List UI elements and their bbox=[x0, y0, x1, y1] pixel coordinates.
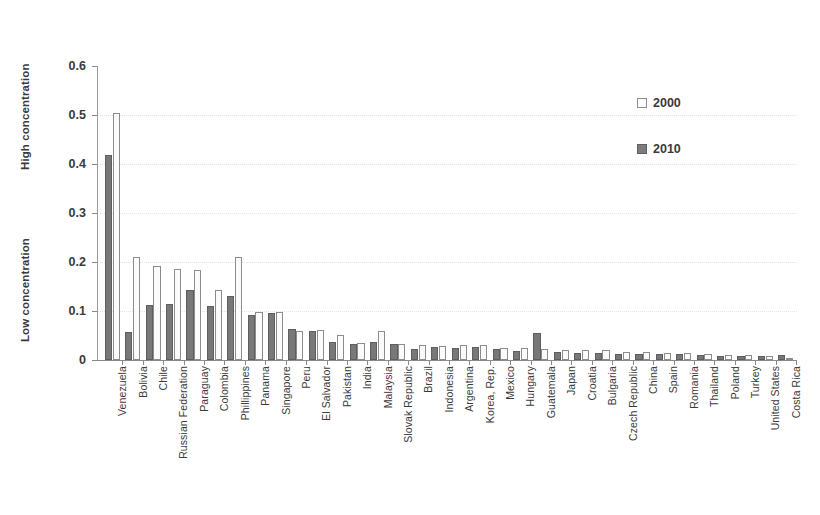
bar-2000 bbox=[113, 113, 120, 360]
bar-2000 bbox=[480, 345, 487, 360]
x-axis-tick-mark bbox=[735, 360, 736, 365]
x-axis-tick-mark bbox=[510, 360, 511, 365]
bar-2000 bbox=[582, 350, 589, 360]
x-axis-category-label: Thailand bbox=[708, 366, 720, 407]
bar-2000 bbox=[500, 348, 507, 360]
bar-2010 bbox=[717, 356, 724, 360]
x-axis-category-label: Korea, Rep. bbox=[484, 366, 496, 423]
bar-2010 bbox=[105, 155, 112, 360]
x-axis-tick-mark bbox=[429, 360, 430, 365]
bar-2010 bbox=[758, 356, 765, 360]
x-axis-tick-mark bbox=[714, 360, 715, 365]
axis-label-high-concentration: High concentration bbox=[19, 63, 31, 170]
x-axis-category-label: United States bbox=[769, 366, 781, 430]
x-axis-category-label: Hungary bbox=[524, 366, 536, 406]
bar-2000 bbox=[276, 312, 283, 360]
bar-2010 bbox=[288, 329, 295, 360]
x-axis-category-label: Pakistan bbox=[341, 366, 353, 407]
x-axis-tick-mark bbox=[306, 360, 307, 365]
bar-group bbox=[531, 66, 551, 360]
bar-group bbox=[755, 66, 775, 360]
bar-2000 bbox=[786, 358, 793, 360]
bar-2000 bbox=[194, 270, 201, 360]
x-axis-category-label: Guatemala bbox=[545, 366, 557, 418]
x-axis-category-label: Panama bbox=[259, 366, 271, 406]
bar-2010 bbox=[778, 355, 785, 360]
y-axis-tick-label: 0.2 bbox=[69, 255, 86, 269]
x-axis-tick-mark bbox=[367, 360, 368, 365]
bar-2000 bbox=[357, 343, 364, 360]
bar-2010 bbox=[146, 305, 153, 360]
y-axis-tick-mark bbox=[92, 311, 97, 312]
x-axis-tick-mark bbox=[551, 360, 552, 365]
bar-2000 bbox=[623, 352, 630, 360]
bar-2010 bbox=[268, 313, 275, 360]
bar-group bbox=[388, 66, 408, 360]
y-axis-tick-mark bbox=[92, 66, 97, 67]
bar-group bbox=[551, 66, 571, 360]
x-axis-tick-mark bbox=[224, 360, 225, 365]
bar-2010 bbox=[390, 344, 397, 360]
x-axis-tick-mark bbox=[265, 360, 266, 365]
x-axis-tick-mark bbox=[449, 360, 450, 365]
bar-2010 bbox=[595, 353, 602, 360]
bar-2010 bbox=[411, 349, 418, 360]
bar-2010 bbox=[186, 290, 193, 360]
x-axis-category-label: Spain bbox=[667, 366, 679, 393]
x-axis-category-label: Indonesia bbox=[443, 366, 455, 412]
y-axis-tick-label: 0.3 bbox=[69, 206, 86, 220]
bar-2000 bbox=[602, 350, 609, 360]
legend-item-2000: 2000 bbox=[637, 96, 757, 110]
x-axis-category-label: Mexico bbox=[504, 366, 516, 400]
bar-group bbox=[776, 66, 796, 360]
legend-label-2000: 2000 bbox=[653, 96, 681, 110]
bar-2000 bbox=[153, 266, 160, 360]
x-axis-category-label: Japan bbox=[565, 366, 577, 395]
axis-label-low-concentration: Low concentration bbox=[19, 238, 31, 342]
x-axis-category-label: Peru bbox=[300, 366, 312, 389]
x-axis-tick-mark bbox=[122, 360, 123, 365]
bar-group bbox=[265, 66, 285, 360]
bar-2000 bbox=[725, 355, 732, 360]
x-axis-category-label: Bolivia bbox=[137, 366, 149, 398]
bar-group bbox=[143, 66, 163, 360]
bar-group bbox=[429, 66, 449, 360]
y-axis-tick-label: 0.5 bbox=[69, 108, 86, 122]
x-axis-category-label: Singapore bbox=[280, 366, 292, 415]
x-axis-category-label: Chile bbox=[157, 366, 169, 390]
bar-2000 bbox=[398, 344, 405, 360]
x-axis-tick-mark bbox=[469, 360, 470, 365]
bar-2000 bbox=[296, 331, 303, 360]
bar-2010 bbox=[513, 351, 520, 360]
x-axis-tick-mark bbox=[184, 360, 185, 365]
x-axis-category-label: Poland bbox=[729, 366, 741, 399]
bar-2000 bbox=[235, 257, 242, 360]
bar-group bbox=[490, 66, 510, 360]
bar-2010 bbox=[697, 355, 704, 360]
x-axis-category-label: Costa Rica bbox=[790, 366, 802, 418]
x-axis-category-label: Slovak Republic bbox=[402, 366, 414, 443]
x-axis-category-label: Malaysia bbox=[382, 366, 394, 408]
bar-group bbox=[245, 66, 265, 360]
x-axis-tick-mark bbox=[571, 360, 572, 365]
x-axis-tick-mark bbox=[755, 360, 756, 365]
x-axis-tick-mark bbox=[143, 360, 144, 365]
bar-2010 bbox=[635, 354, 642, 360]
bar-2000 bbox=[766, 356, 773, 360]
y-axis-tick-label: 0.4 bbox=[69, 157, 86, 171]
y-axis-tick-label: 0.6 bbox=[69, 59, 86, 73]
bar-group bbox=[102, 66, 122, 360]
bar-group bbox=[592, 66, 612, 360]
bar-group bbox=[286, 66, 306, 360]
x-axis-category-label: Turkey bbox=[749, 366, 761, 398]
legend-label-2010: 2010 bbox=[653, 142, 681, 156]
bar-2000 bbox=[215, 290, 222, 360]
bar-group bbox=[122, 66, 142, 360]
y-axis-tick-label: 0 bbox=[79, 353, 86, 367]
bar-group bbox=[204, 66, 224, 360]
x-axis-tick-mark bbox=[653, 360, 654, 365]
bar-group bbox=[469, 66, 489, 360]
bar-2000 bbox=[562, 350, 569, 360]
bar-2000 bbox=[439, 346, 446, 360]
bar-group bbox=[347, 66, 367, 360]
